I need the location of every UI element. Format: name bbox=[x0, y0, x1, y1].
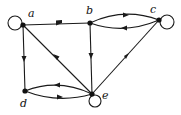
edge-loop-a bbox=[8, 16, 22, 30]
arrow-c-b-icon bbox=[121, 26, 127, 31]
edge-loop-e bbox=[89, 95, 101, 107]
node-a bbox=[20, 22, 25, 27]
node-d bbox=[22, 88, 27, 93]
node-e bbox=[89, 91, 94, 96]
edge-loop-c bbox=[160, 15, 174, 29]
arrow-b-e-icon bbox=[89, 53, 94, 59]
label-e: e bbox=[102, 89, 109, 102]
label-c: c bbox=[150, 3, 156, 16]
label-a: a bbox=[28, 7, 35, 20]
label-b: b bbox=[86, 4, 93, 17]
arrow-e-d-icon bbox=[54, 83, 60, 88]
arrow-a-d-icon bbox=[22, 56, 27, 62]
directed-graph: a b c d e bbox=[0, 0, 181, 115]
label-d: d bbox=[20, 97, 27, 110]
arrow-b-c-icon bbox=[123, 13, 129, 18]
arrow-a-b-icon bbox=[56, 20, 62, 26]
node-b bbox=[87, 20, 92, 25]
arrow-a-e-icon bbox=[53, 54, 60, 60]
node-c bbox=[156, 17, 161, 22]
